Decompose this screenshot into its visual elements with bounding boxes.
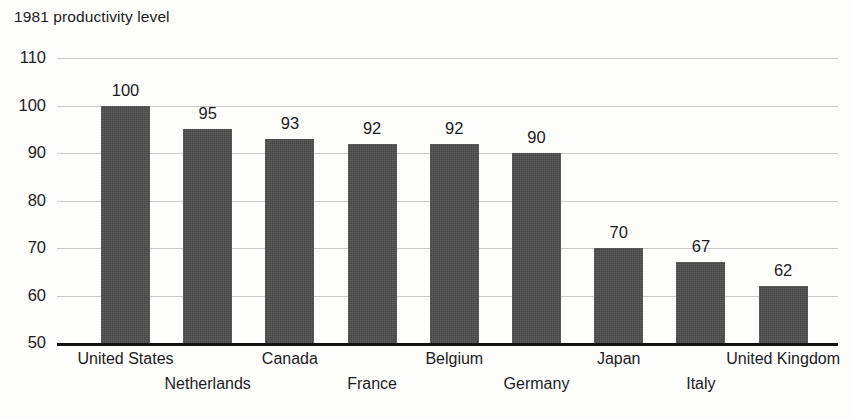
y-axis-tick-label: 70 xyxy=(0,238,46,257)
bar-value-label: 90 xyxy=(512,128,561,147)
category-label: United States xyxy=(77,350,173,368)
bar-value-label: 67 xyxy=(676,237,725,256)
bar xyxy=(265,139,314,343)
bar-value-label: 92 xyxy=(430,119,479,138)
category-label: Japan xyxy=(597,350,641,368)
y-axis-tick-label: 100 xyxy=(0,96,46,115)
y-axis-tick-label: 80 xyxy=(0,191,46,210)
bar xyxy=(348,144,397,344)
bar xyxy=(101,106,150,344)
category-label: Italy xyxy=(686,375,715,393)
bar xyxy=(676,262,725,343)
y-axis-tick-label: 50 xyxy=(0,333,46,352)
y-axis-tick-label: 60 xyxy=(0,286,46,305)
bar xyxy=(430,144,479,344)
bar xyxy=(594,248,643,343)
bar xyxy=(183,129,232,343)
bar-chart: 1981 productivity level 1101009080706050… xyxy=(0,0,852,419)
y-axis-tick-label: 90 xyxy=(0,143,46,162)
bar-value-label: 62 xyxy=(759,261,808,280)
bar-value-label: 95 xyxy=(183,104,232,123)
plot-area: 1101009080706050 1009593929290706762 Uni… xyxy=(0,0,852,419)
bar-value-label: 92 xyxy=(348,119,397,138)
gridline xyxy=(57,106,838,107)
category-label: Germany xyxy=(504,375,570,393)
category-label: United Kingdom xyxy=(726,350,840,368)
bar xyxy=(759,286,808,343)
bar-value-label: 70 xyxy=(594,223,643,242)
bar xyxy=(512,153,561,343)
category-label: Canada xyxy=(262,350,318,368)
category-label: France xyxy=(347,375,397,393)
bar-value-label: 100 xyxy=(101,81,150,100)
category-label: Netherlands xyxy=(165,375,251,393)
bar-value-label: 93 xyxy=(265,114,314,133)
gridline xyxy=(57,58,838,59)
x-axis-line xyxy=(57,343,838,346)
y-axis-tick-label: 110 xyxy=(0,48,46,67)
category-label: Belgium xyxy=(425,350,483,368)
